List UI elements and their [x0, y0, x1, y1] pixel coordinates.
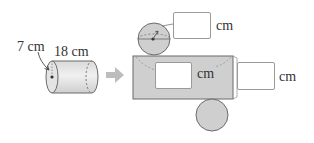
height-label: 18 cm: [54, 45, 89, 59]
top-circle-unit-label: cm: [216, 19, 233, 33]
rectangle-width-unit-label: cm: [197, 67, 214, 81]
bottom-circle-face: [196, 99, 228, 131]
top-circle-face: [138, 23, 173, 55]
top-circle-radius-answer-box[interactable]: [173, 12, 211, 39]
rectangle-height-unit-label: cm: [279, 70, 296, 84]
rectangle-height-answer-box[interactable]: [237, 62, 275, 90]
radius-label: 7 cm: [17, 40, 45, 54]
arrow-right-icon: [106, 67, 124, 83]
rectangle-width-answer-box[interactable]: [155, 62, 192, 89]
